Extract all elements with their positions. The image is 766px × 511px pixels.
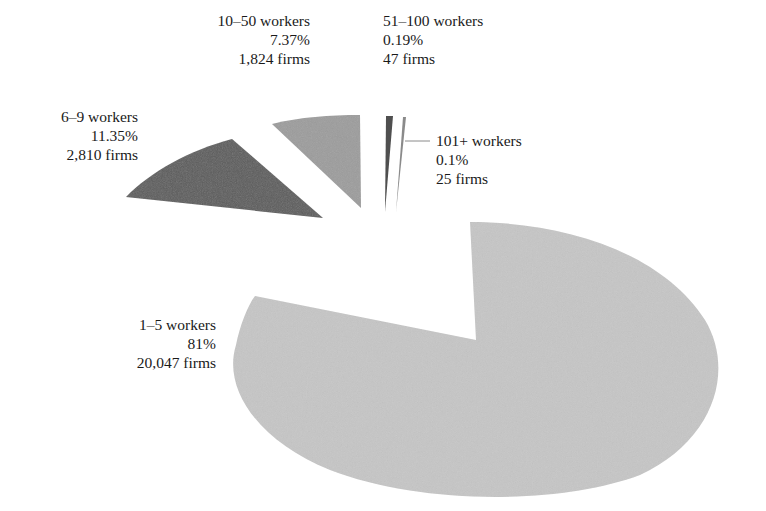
label-6-9-workers: 6–9 workers 11.35% 2,810 firms [20, 107, 138, 164]
slice-6-9-workers [126, 139, 323, 218]
label-percent: 0.19% [383, 30, 483, 49]
pie-chart [0, 0, 766, 511]
label-percent: 0.1% [436, 150, 522, 169]
label-name: 10–50 workers [190, 11, 310, 30]
slice-101plus-workers [396, 117, 406, 212]
label-percent: 81% [90, 334, 216, 353]
label-10-50-workers: 10–50 workers 7.37% 1,824 firms [190, 11, 310, 68]
label-name: 1–5 workers [90, 315, 216, 334]
label-percent: 11.35% [20, 126, 138, 145]
label-firms: 25 firms [436, 169, 522, 188]
slice-1-5-workers [233, 222, 718, 497]
label-firms: 2,810 firms [20, 145, 138, 164]
label-name: 6–9 workers [20, 107, 138, 126]
label-firms: 20,047 firms [90, 353, 216, 372]
slice-51-100-workers [385, 116, 393, 212]
label-101plus-workers: 101+ workers 0.1% 25 firms [436, 131, 522, 188]
label-firms: 1,824 firms [190, 49, 310, 68]
label-51-100-workers: 51–100 workers 0.19% 47 firms [383, 11, 483, 68]
label-1-5-workers: 1–5 workers 81% 20,047 firms [90, 315, 216, 372]
label-firms: 47 firms [383, 49, 483, 68]
label-name: 101+ workers [436, 131, 522, 150]
label-percent: 7.37% [190, 30, 310, 49]
label-name: 51–100 workers [383, 11, 483, 30]
